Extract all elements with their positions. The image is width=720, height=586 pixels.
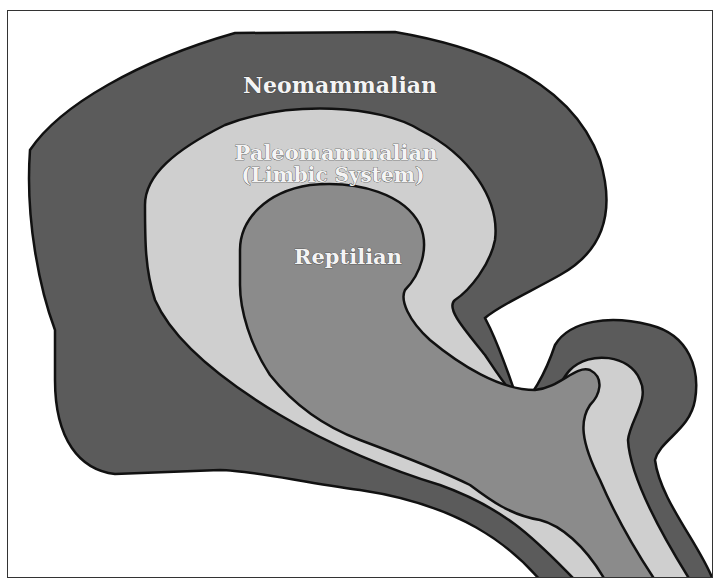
triune-brain-diagram: Neomammalian Paleomammalian (Limbic Syst… xyxy=(0,0,720,586)
paleomammalian-label-line1: Paleomammalian xyxy=(235,140,438,165)
reptilian-label: Reptilian xyxy=(294,244,402,269)
paleomammalian-label-line2: (Limbic System) xyxy=(242,163,425,187)
neomammalian-label: Neomammalian xyxy=(243,72,437,98)
